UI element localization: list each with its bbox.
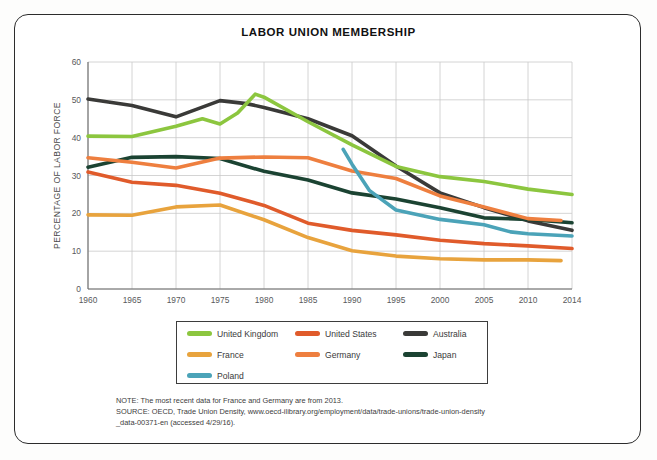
legend-grid: United KingdomUnited StatesAustraliaFran… — [177, 322, 487, 383]
y-tick-label: 50 — [72, 95, 82, 105]
x-tick-label: 1960 — [79, 295, 98, 305]
x-tick-label: 2014 — [563, 295, 582, 305]
legend-color-swatch — [187, 331, 212, 336]
legend-item-label: Australia — [433, 329, 466, 339]
y-tick-label: 20 — [72, 208, 82, 218]
x-tick-label: 1965 — [123, 295, 142, 305]
legend-item-label: France — [217, 350, 244, 360]
chart-legend: United KingdomUnited StatesAustraliaFran… — [176, 321, 488, 384]
y-tick-label: 30 — [72, 171, 82, 181]
chart-notes: NOTE: The most recent data for France an… — [116, 395, 586, 429]
x-tick-label: 1975 — [211, 295, 230, 305]
legend-item-label: Japan — [433, 350, 456, 360]
legend-color-swatch — [295, 352, 320, 357]
chart-svg: 0102030405060196019651970197519801985199… — [0, 0, 657, 460]
legend-item-label: Poland — [217, 371, 244, 381]
y-axis-title: PERCENTAGE OF LABOR FORCE — [52, 102, 62, 249]
x-tick-label: 1970 — [167, 295, 186, 305]
legend-item-label: Germany — [325, 350, 360, 360]
y-tick-label: 0 — [76, 284, 81, 294]
x-tick-label: 2000 — [431, 295, 450, 305]
legend-item[interactable]: Germany — [295, 344, 403, 365]
legend-item[interactable]: Australia — [403, 323, 499, 344]
legend-color-swatch — [403, 352, 428, 357]
legend-color-swatch — [187, 352, 212, 357]
y-axis-tick-labels: 0102030405060 — [72, 57, 82, 294]
x-tick-label: 2010 — [519, 295, 538, 305]
note-line-1: NOTE: The most recent data for France an… — [116, 395, 586, 406]
legend-item[interactable]: Poland — [187, 365, 295, 386]
legend-item-label: United States — [325, 329, 377, 339]
note-line-3: _data-00371-en (accessed 4/29/16). — [116, 417, 586, 428]
y-tick-label: 40 — [72, 133, 82, 143]
x-tick-label: 1985 — [299, 295, 318, 305]
x-tick-label: 1990 — [343, 295, 362, 305]
x-tick-label: 1995 — [387, 295, 406, 305]
legend-item-label: United Kingdom — [217, 329, 278, 339]
legend-item[interactable]: United States — [295, 323, 403, 344]
chart-plot-area: 0102030405060196019651970197519801985199… — [0, 0, 657, 460]
x-axis-tick-labels: 1960196519701975198019851990199520002005… — [79, 295, 582, 305]
legend-color-swatch — [403, 331, 428, 336]
chart-page: LABOR UNION MEMBERSHIP 01020304050601960… — [0, 0, 657, 460]
legend-color-swatch — [295, 331, 320, 336]
legend-item[interactable]: France — [187, 344, 295, 365]
legend-color-swatch — [187, 373, 212, 378]
chart-series-group — [88, 94, 572, 260]
x-tick-label: 1980 — [255, 295, 274, 305]
y-tick-label: 60 — [72, 57, 82, 67]
legend-item[interactable]: United Kingdom — [187, 323, 295, 344]
y-tick-label: 10 — [72, 246, 82, 256]
x-tick-label: 2005 — [475, 295, 494, 305]
legend-item[interactable]: Japan — [403, 344, 499, 365]
chart-gridlines — [88, 62, 572, 289]
note-line-2: SOURCE: OECD, Trade Union Density, www.o… — [116, 406, 586, 417]
series-line — [88, 94, 572, 194]
